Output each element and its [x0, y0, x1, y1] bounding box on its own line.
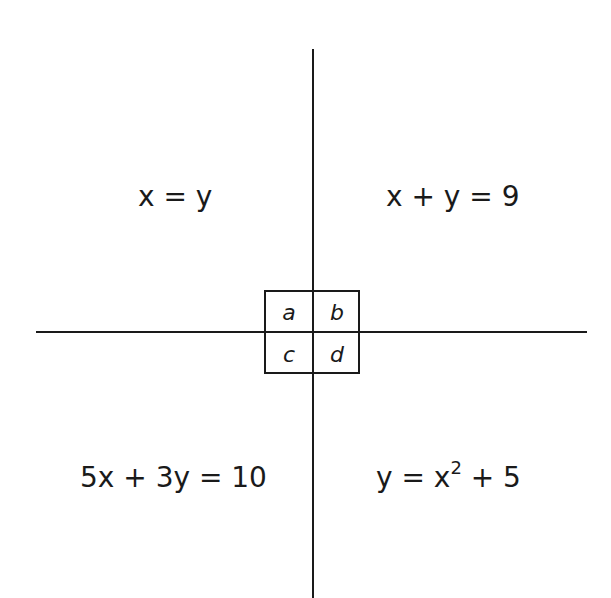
exponent: 2	[450, 457, 461, 478]
cell-c: c	[265, 333, 313, 375]
equation-base: y = x	[376, 461, 450, 494]
cell-a: a	[265, 291, 313, 333]
cell-b: b	[313, 291, 361, 333]
equation-tail: + 5	[462, 461, 521, 494]
equation-top-left: x = y	[138, 180, 212, 213]
cell-d: d	[313, 333, 361, 375]
equation-bottom-right: y = x2 + 5	[376, 461, 521, 494]
equation-bottom-left: 5x + 3y = 10	[80, 461, 267, 494]
equation-top-right: x + y = 9	[386, 180, 519, 213]
